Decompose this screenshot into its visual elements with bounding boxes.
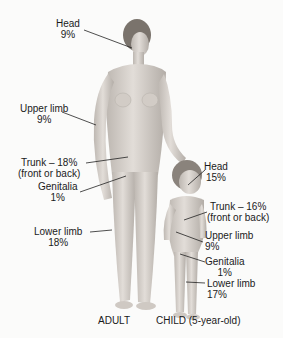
adult-trunk-label: Trunk – 18% (front or back) <box>18 157 80 179</box>
label-pct: 17% <box>207 289 255 300</box>
label-name: Genitalia <box>38 181 77 192</box>
label-name: Trunk – 18% <box>18 157 80 168</box>
child-upper-limb-label: Upper limb 9% <box>205 230 253 252</box>
label-name: Upper limb <box>20 103 68 114</box>
child-caption: CHILD (5-year-old) <box>156 315 240 326</box>
child-figure <box>164 160 207 320</box>
label-pct: 9% <box>56 29 80 40</box>
child-trunk-label: Trunk – 16% (front or back) <box>207 201 269 223</box>
label-name: Upper limb <box>205 230 253 241</box>
adult-genitalia-label: Genitalia 1% <box>38 181 77 203</box>
child-head-label: Head 15% <box>204 161 228 183</box>
adult-head-label: Head 9% <box>56 18 80 40</box>
label-name: Head <box>56 18 80 29</box>
adult-lower-limb-label: Lower limb 18% <box>34 226 82 248</box>
label-pct: 9% <box>205 241 253 252</box>
adult-upper-limb-label: Upper limb 9% <box>20 103 68 125</box>
label-pct: 1% <box>38 192 77 203</box>
label-name: Head <box>204 161 228 172</box>
label-name: Trunk – 16% <box>207 201 269 212</box>
label-name: Lower limb <box>207 278 255 289</box>
child-lower-limb-label: Lower limb 17% <box>207 278 255 300</box>
label-pct: (front or back) <box>207 212 269 223</box>
adult-figure <box>94 19 186 310</box>
label-name: Lower limb <box>34 226 82 237</box>
adult-caption: ADULT <box>98 315 130 326</box>
label-pct: 15% <box>204 172 228 183</box>
label-pct: (front or back) <box>18 168 80 179</box>
label-pct: 9% <box>20 114 68 125</box>
label-pct: 18% <box>34 237 82 248</box>
label-name: Genitalia <box>205 256 244 267</box>
label-pct: 1% <box>205 267 244 278</box>
child-genitalia-label: Genitalia 1% <box>205 256 244 278</box>
